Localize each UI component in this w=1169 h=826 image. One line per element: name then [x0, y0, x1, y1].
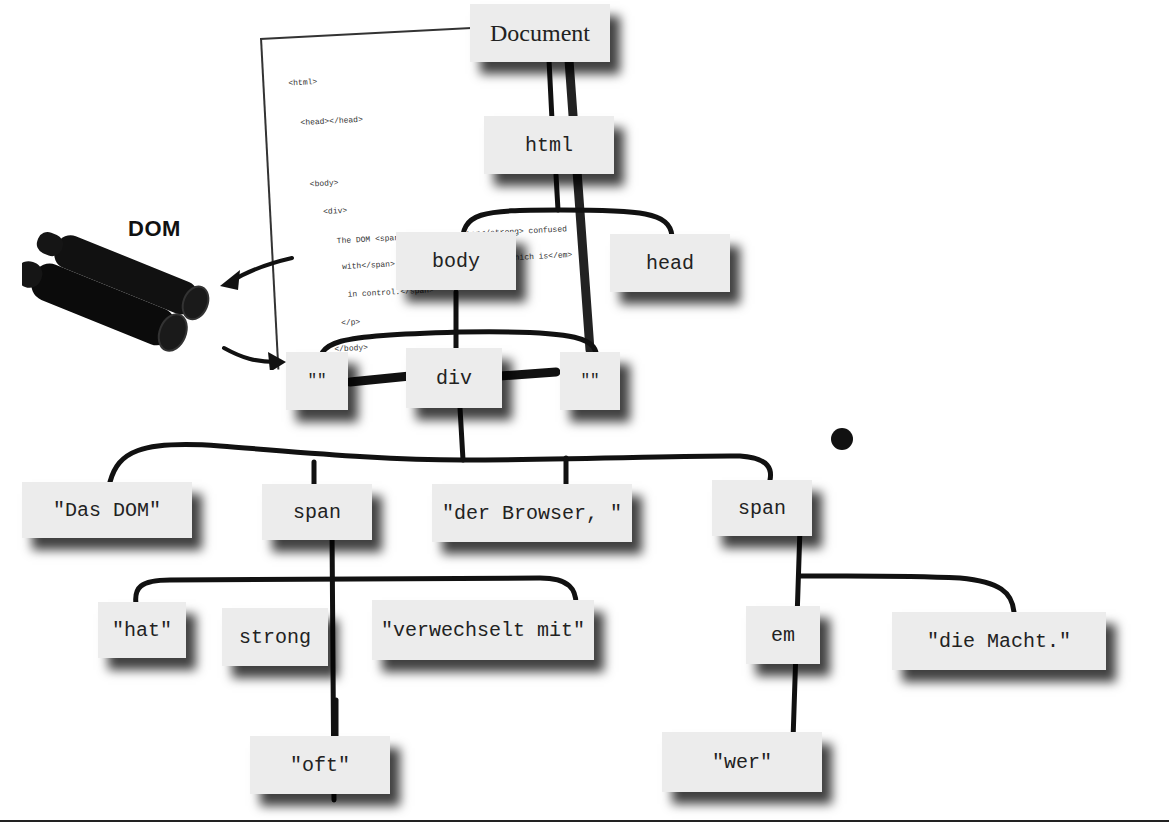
node-der-browser: "der Browser, " — [432, 484, 632, 542]
node-html: html — [484, 116, 614, 174]
node-text-left: "" — [286, 352, 348, 410]
node-span1: span — [262, 484, 372, 540]
dom-label: DOM — [128, 216, 181, 242]
node-text-right: "" — [560, 352, 620, 410]
binoculars-icon — [22, 228, 222, 368]
node-document: Document — [470, 4, 610, 62]
bullet-dot — [831, 428, 853, 450]
node-die-macht: "die Macht." — [892, 612, 1106, 670]
node-head: head — [610, 234, 730, 292]
node-hat: "hat" — [98, 602, 186, 658]
node-oft: "oft" — [250, 736, 390, 794]
node-body: body — [396, 232, 516, 290]
node-verwechselt: "verwechselt mit" — [372, 600, 594, 660]
node-das-dom: "Das DOM" — [22, 482, 192, 538]
node-strong: strong — [222, 608, 328, 666]
node-wer: "wer" — [662, 732, 822, 792]
node-em: em — [746, 606, 820, 664]
node-div: div — [406, 348, 502, 408]
node-span2: span — [712, 480, 812, 536]
arrow-icons — [216, 250, 296, 370]
bottom-divider — [0, 820, 1169, 822]
